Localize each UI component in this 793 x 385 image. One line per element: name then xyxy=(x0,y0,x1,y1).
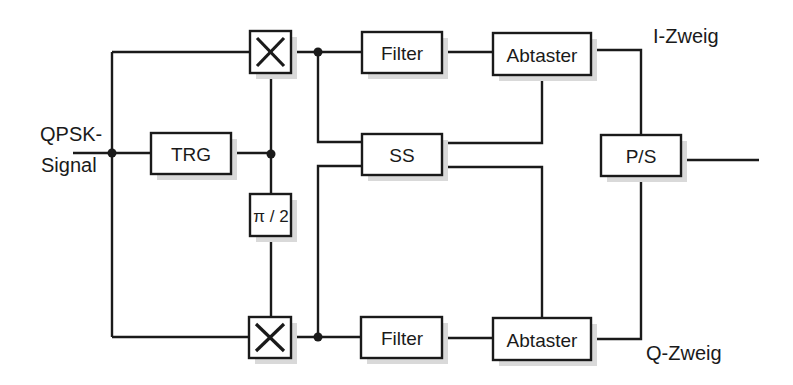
i-branch-label: I-Zweig xyxy=(653,25,719,47)
q-junction-dot xyxy=(314,333,323,342)
filter-q-block: Filter xyxy=(361,317,448,364)
i-junction-dot xyxy=(314,48,323,57)
trg-label: TRG xyxy=(171,144,211,165)
diagram-svg: TRG π / 2 Filter SS Filter xyxy=(0,0,793,385)
input-label-line2: Signal xyxy=(41,154,97,176)
ss-to-sampler-i-wire xyxy=(442,75,542,143)
ps-block: P/S xyxy=(601,135,687,182)
q-branch-wire xyxy=(591,176,641,339)
input-label-line1: QPSK- xyxy=(40,123,102,145)
sampler-i-label: Abtaster xyxy=(507,45,578,66)
phase-shift-label: π / 2 xyxy=(253,207,288,226)
sampler-i-block: Abtaster xyxy=(493,33,597,81)
filter-q-label: Filter xyxy=(381,328,424,349)
ss-block: SS xyxy=(362,134,448,181)
i-to-ss-wire xyxy=(318,52,362,142)
sampler-q-label: Abtaster xyxy=(507,330,578,351)
ss-to-sampler-q-wire xyxy=(442,167,542,318)
carrier-junction-dot xyxy=(267,150,276,159)
trg-block: TRG xyxy=(151,133,237,180)
q-branch-label: Q-Zweig xyxy=(646,342,722,364)
i-branch-wire xyxy=(591,50,641,135)
mixer-i-block xyxy=(250,31,297,79)
ps-label: P/S xyxy=(626,146,657,167)
phase-shift-block: π / 2 xyxy=(250,194,297,242)
sampler-q-block: Abtaster xyxy=(493,318,597,366)
qpsk-demodulator-diagram: TRG π / 2 Filter SS Filter xyxy=(0,0,793,385)
q-to-ss-wire xyxy=(318,166,362,337)
filter-i-block: Filter xyxy=(362,32,448,79)
input-junction-dot xyxy=(108,149,117,158)
wires xyxy=(73,50,759,339)
mixer-q-block xyxy=(249,317,297,364)
filter-i-label: Filter xyxy=(381,43,424,64)
ss-label: SS xyxy=(389,145,414,166)
